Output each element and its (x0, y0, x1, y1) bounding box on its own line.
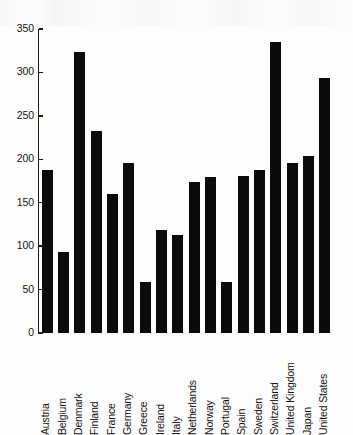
bar-united-kingdom[interactable] (287, 163, 298, 333)
bar-greece[interactable] (140, 282, 151, 333)
scan-noise-artifact (0, 0, 353, 26)
bar-finland[interactable] (91, 131, 102, 333)
y-axis-tick-50 (39, 289, 43, 290)
x-axis-label-japan: Japan (301, 407, 313, 435)
y-axis-label-300: 300 (4, 65, 34, 77)
y-axis-tick-labels: 050100150200250300350 (0, 0, 34, 435)
bar-italy[interactable] (172, 235, 183, 333)
y-axis-label-50: 50 (4, 283, 34, 295)
x-axis-label-greece: Greece (137, 401, 149, 435)
bar-belgium[interactable] (58, 252, 69, 333)
x-axis-label-united-states: United States (317, 374, 329, 435)
y-axis-tick-300 (39, 72, 43, 73)
y-axis-tick-350 (39, 28, 43, 29)
y-axis-tick-150 (39, 202, 43, 203)
x-axis-label-italy: Italy (170, 416, 182, 435)
x-axis-label-france: France (105, 403, 117, 435)
x-axis-label-ireland: Ireland (154, 404, 166, 435)
x-axis-label-austria: Austria (39, 403, 51, 435)
y-axis-label-250: 250 (4, 109, 34, 121)
x-axis-label-germany: Germany (121, 393, 133, 435)
y-axis-label-350: 350 (4, 22, 34, 34)
bar-united-states[interactable] (319, 78, 330, 333)
y-axis-label-150: 150 (4, 196, 34, 208)
x-axis-tick-labels: AustriaBelgiumDenmarkFinlandFranceGerman… (39, 336, 333, 435)
x-axis-label-spain: Spain (235, 409, 247, 435)
bar-norway[interactable] (205, 177, 216, 333)
y-axis-tick-100 (39, 245, 43, 246)
bar-spain[interactable] (238, 176, 249, 333)
bar-portugal[interactable] (221, 282, 232, 333)
y-axis-label-0: 0 (4, 326, 34, 338)
bar-japan[interactable] (303, 156, 314, 333)
x-axis-label-norway: Norway (203, 400, 215, 435)
y-axis-label-200: 200 (4, 152, 34, 164)
bar-sweden[interactable] (254, 170, 265, 333)
x-axis-label-portugal: Portugal (219, 397, 231, 435)
x-axis-label-netherlands: Netherlands (186, 380, 198, 435)
x-axis-label-finland: Finland (88, 402, 100, 435)
x-axis-label-united-kingdom: United Kingdom (284, 362, 296, 435)
bar-ireland[interactable] (156, 230, 167, 333)
x-axis-label-denmark: Denmark (72, 393, 84, 435)
y-axis-tick-200 (39, 159, 43, 160)
bar-switzerland[interactable] (270, 42, 281, 333)
x-axis-label-sweden: Sweden (252, 398, 264, 435)
bar-chart: 050100150200250300350 AustriaBelgiumDenm… (0, 0, 353, 435)
bar-austria[interactable] (42, 170, 53, 333)
y-axis-label-100: 100 (4, 239, 34, 251)
y-axis-tick-0 (39, 332, 43, 333)
x-axis-label-switzerland: Switzerland (268, 382, 280, 435)
bar-netherlands[interactable] (189, 182, 200, 333)
y-axis-tick-250 (39, 115, 43, 116)
plot-area (39, 29, 333, 333)
bar-denmark[interactable] (74, 52, 85, 333)
bar-germany[interactable] (123, 163, 134, 333)
bar-france[interactable] (107, 194, 118, 333)
x-axis-label-belgium: Belgium (56, 398, 68, 435)
